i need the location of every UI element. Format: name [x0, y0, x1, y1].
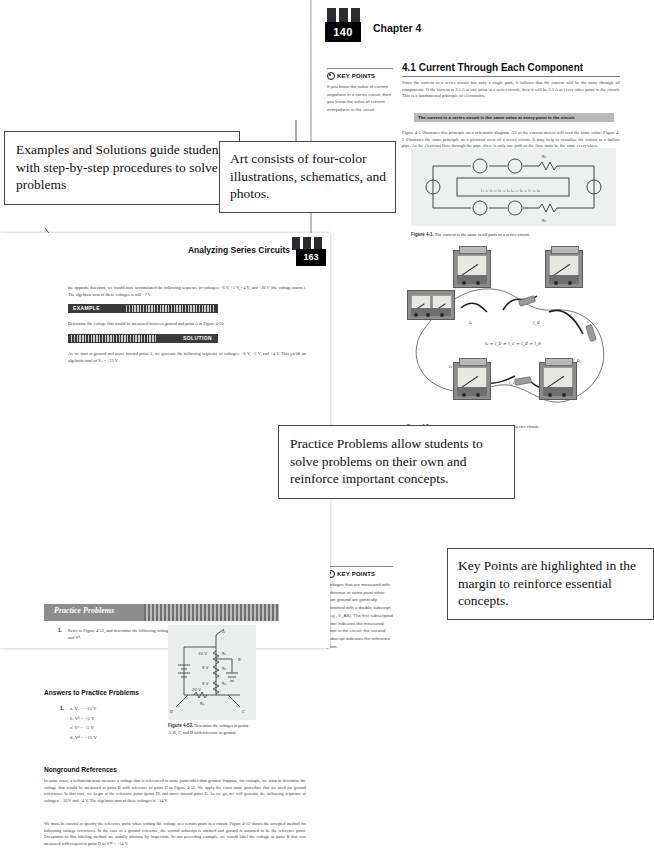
svg-text:5 V: 5 V [202, 665, 209, 670]
nonground-paragraph-2: We must be careful to specify the refere… [44, 821, 306, 848]
answers-number: 1. [60, 704, 64, 714]
meter-handle [551, 246, 579, 254]
svg-text:R₁: R₁ [542, 154, 547, 159]
svg-text:I₁ = I₂ = I₃ = I₄ I₅ = I₆ = I: I₁ = I₂ = I₃ = I₄ I₅ = I₆ = I₇ = I₈ [481, 188, 540, 193]
nonground-paragraph-1: In some cases, a technician must measure… [44, 778, 306, 805]
banner-hatch [144, 604, 279, 621]
tag-hatch [126, 305, 215, 312]
callout-examples-text: Examples and Solutions guide students wi… [16, 141, 229, 194]
example-tag-bar: EXAMPLE [68, 304, 218, 313]
answer-item-a: a. Vₐ = −15 V [70, 704, 97, 714]
solution-tag-bar: SOLUTION [68, 334, 218, 343]
meter-jack [462, 393, 466, 397]
meter-handle [545, 358, 573, 366]
answers-heading: Answers to Practice Problems [44, 689, 139, 696]
page-number-140: 140 [325, 22, 361, 42]
key-points-rule [327, 566, 393, 567]
wiring-illustration: I₁Iₐ I_dI_cI_b Iₐ = I_b = I_c = I_d = I_… [407, 250, 622, 420]
callout-practice-problems: Practice Problems allow students to solv… [278, 425, 515, 499]
meter-jack [562, 393, 566, 397]
analog-meter-2 [545, 250, 583, 288]
meter-handle [459, 246, 487, 254]
svg-text:Iₐ: Iₐ [469, 320, 472, 325]
practice-problem-number: 1. [58, 627, 62, 634]
svg-text:Iₐ = I_b = I_c = I_d = I_e: Iₐ = I_b = I_c = I_d = I_e [485, 341, 541, 347]
nonground-heading: Nonground References [44, 766, 117, 773]
figure-4-53-number: Figure 4-53. [168, 723, 193, 728]
figure-4-53-schematic: AB CD 10 V5 V 5 V20 V R₁R₂R₃ R₄ [168, 625, 256, 720]
svg-text:R₃: R₃ [222, 681, 227, 686]
key-points-rule [327, 68, 393, 69]
answer-item-d: d. Vᵈ = +15 V [70, 733, 97, 743]
key-points-title: KEY POINTS [327, 72, 393, 80]
svg-text:20 V: 20 V [192, 687, 201, 692]
meter-handle [459, 358, 487, 366]
meter-jack [476, 393, 480, 397]
svg-text:D: D [170, 709, 173, 714]
chapter-label: Chapter 4 [373, 22, 421, 34]
tag-hatch [71, 335, 157, 342]
callout-examples-and-solutions: Examples and Solutions guide students wi… [4, 131, 240, 205]
folio-tab-right: 163 [290, 237, 326, 271]
svg-text:B: B [238, 657, 241, 662]
practice-problems-banner: Practice Problems [44, 604, 279, 621]
highlight-rule-box: The current in a series circuit is the s… [414, 113, 614, 122]
svg-text:5 V: 5 V [202, 681, 209, 686]
analog-meter-4 [539, 362, 577, 400]
left-paragraph-top: the opposite direction, we would have ac… [68, 285, 306, 298]
solution-tag-label: SOLUTION [183, 334, 212, 343]
analog-meter-3 [453, 362, 491, 400]
figure-4-1-number: Figure 4-1. [411, 232, 434, 237]
key-points-block-1: KEY POINTS If you know the value of curr… [327, 68, 393, 114]
key-points-title-text: KEY POINTS [337, 73, 375, 79]
answer-item-c: c. Vᶜ = +5 V [70, 723, 97, 733]
key-points-text-2: Voltages that are measured with referenc… [327, 581, 393, 650]
callout-keypoints-text: Key Points are highlighted in the margin… [458, 557, 644, 610]
meter-jack [476, 281, 480, 285]
figure-4-1-caption: Figure 4-1. The current is the same in a… [411, 232, 621, 237]
meter-jack [548, 393, 552, 397]
meter-jack [414, 313, 418, 317]
practice-problems-title: Practice Problems [54, 606, 114, 615]
callout-art: Art consists of four-color illustrations… [219, 141, 396, 213]
running-head: Analyzing Series Circuits [188, 245, 290, 255]
svg-text:R₃: R₃ [542, 218, 547, 223]
callout-key-points: Key Points are highlighted in the margin… [447, 548, 654, 620]
answer-item-b: b. Vᵇ = −5 V [70, 714, 97, 724]
figure-4-2-pictorial: I₁Iₐ I_dI_cI_b Iₐ = I_b = I_c = I_d = I_… [407, 250, 622, 420]
solution-paragraph: As we start at ground and move toward po… [68, 351, 306, 364]
callout-practice-text: Practice Problems allow students to solv… [290, 435, 504, 488]
svg-text:A: A [222, 629, 225, 634]
answers-list: 1. a. Vₐ = −15 V b. Vᵇ = −5 V c. Vᶜ = +5… [70, 704, 97, 742]
folio-tab-left: 140 [325, 8, 369, 48]
meter-jack [426, 313, 430, 317]
body-paragraph-1: Since the current in a series circuit ha… [402, 80, 620, 100]
meter-jack [462, 281, 466, 285]
example-tag-label: EXAMPLE [73, 304, 100, 313]
key-points-block-2: KEY POINTS Voltages that are measured wi… [327, 566, 393, 650]
key-points-text-1: If you know the value of current anywher… [327, 83, 393, 114]
highlight-rule-text: The current in a series circuit is the s… [414, 113, 614, 122]
meter-jack [440, 313, 444, 317]
figure-4-1-schematic: R₁R₃ I₁ = I₂ = I₃ = I₄ I₅ = I₆ = I₇ = I₈ [411, 148, 616, 226]
svg-text:R₄: R₄ [200, 701, 205, 706]
svg-text:I_d: I_d [533, 320, 540, 326]
meter-jack [568, 281, 572, 285]
analog-meter-1 [453, 250, 491, 288]
analog-meter-5-dual [407, 290, 455, 320]
svg-text:R₂: R₂ [222, 666, 227, 671]
target-icon [327, 72, 335, 80]
key-points-title: KEY POINTS [327, 570, 393, 578]
svg-text:10 V: 10 V [198, 651, 207, 656]
key-points-title-text: KEY POINTS [337, 571, 375, 577]
meter-jack [554, 281, 558, 285]
svg-text:R₁: R₁ [222, 651, 227, 656]
svg-text:I₁: I₁ [449, 364, 452, 369]
svg-text:C: C [242, 709, 245, 714]
page-number-163: 163 [296, 249, 326, 266]
figure-4-53-caption: Figure 4-53. Determine the voltages at p… [168, 723, 252, 736]
tab-bars-icon [327, 8, 365, 23]
figure-4-1-caption-text: The current is the same in all parts of … [435, 232, 530, 237]
body-paragraph-2: Figure 4-1 illustrates this principle on… [402, 130, 620, 150]
